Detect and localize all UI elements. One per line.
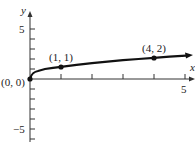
curve-arrow-icon (185, 53, 193, 59)
x-axis-label: x (189, 61, 195, 73)
point-1-1 (58, 64, 63, 69)
x-tick-label-5: 5 (181, 83, 187, 95)
y-tick-label-neg5: −5 (13, 123, 25, 135)
point-label-1-1: (1, 1) (49, 51, 73, 64)
point-label-4-2: (4, 2) (142, 42, 166, 55)
x-axis-arrow-icon (189, 77, 195, 82)
y-tick-label-5: 5 (19, 23, 25, 35)
point-label-origin: (0, 0) (1, 76, 25, 89)
y-ticks (30, 29, 35, 139)
y-axis-label: y (20, 4, 26, 16)
x-ticks (61, 74, 185, 79)
y-axis-arrow-icon (28, 11, 33, 17)
point-origin (27, 76, 32, 81)
function-graph: y 5 −5 5 x (0, 0) (1, 1) (4, 2) (0, 0, 195, 147)
point-4-2 (151, 55, 156, 60)
